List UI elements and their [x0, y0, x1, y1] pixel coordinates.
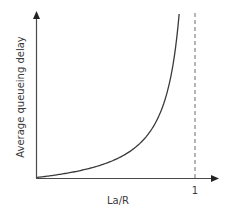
delay-curve [37, 14, 180, 178]
y-axis-label: Average queueing delay [15, 36, 26, 158]
chart: 1 La/R Average queueing delay [0, 0, 229, 219]
x-axis-arrow-icon [211, 175, 219, 182]
y-axis-arrow-icon [33, 11, 40, 19]
x-tick-label-1: 1 [192, 185, 198, 196]
x-axis-label: La/R [107, 195, 129, 206]
